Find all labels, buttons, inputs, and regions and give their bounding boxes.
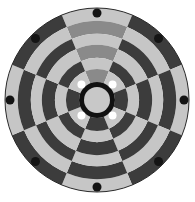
marker-dot-icon (6, 96, 15, 105)
inner-hole-icon (109, 112, 117, 120)
marker-dot-icon (154, 157, 163, 166)
marker-dot-icon (93, 9, 102, 18)
inner-hole-icon (77, 80, 85, 88)
marker-dot-icon (154, 34, 163, 43)
circular-game-board (0, 0, 195, 202)
hub-center[interactable] (84, 87, 110, 113)
inner-hole-icon (109, 80, 117, 88)
marker-dot-icon (93, 183, 102, 192)
marker-dot-icon (180, 96, 189, 105)
marker-dot-icon (31, 34, 40, 43)
marker-dot-icon (31, 157, 40, 166)
inner-hole-icon (77, 112, 85, 120)
